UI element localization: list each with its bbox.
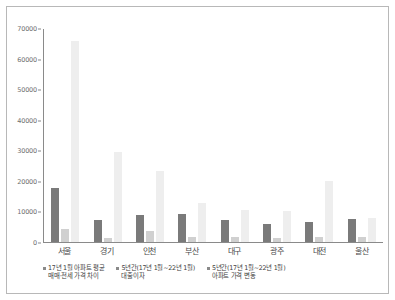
bar — [358, 237, 366, 242]
bar — [348, 219, 356, 242]
y-axis-tick-mark — [38, 181, 41, 182]
x-axis-label: 서울 — [43, 245, 86, 261]
x-axis-label: 대전 — [298, 245, 341, 261]
x-axis-label: 경기 — [86, 245, 129, 261]
y-axis-tick-label: 60000 — [17, 56, 37, 64]
bar-group — [214, 29, 256, 242]
bar-group — [341, 29, 383, 242]
bar-group — [298, 29, 340, 242]
y-axis: 010000200003000040000500006000070000 — [7, 29, 41, 243]
y-axis-tick-label: 50000 — [17, 86, 37, 94]
bar — [263, 224, 271, 242]
bar-group — [86, 29, 128, 242]
y-axis-tick-mark — [38, 29, 41, 30]
x-axis-labels: 서울경기인천부산대구광주대전울산 — [43, 245, 383, 261]
bar — [221, 220, 229, 242]
bar — [273, 238, 281, 242]
bar — [146, 231, 154, 242]
bar — [368, 218, 376, 242]
y-axis-tick-mark — [38, 151, 41, 152]
bar — [61, 229, 69, 242]
bar — [71, 41, 79, 242]
y-axis-tick-label: 20000 — [17, 178, 37, 186]
bar — [231, 237, 239, 242]
bar — [198, 203, 206, 242]
chart-legend: 17년 1월 아파트 평균 매매·전세 가격 차이5년간(17년 1월~22년 … — [43, 264, 388, 280]
x-axis-label: 부산 — [171, 245, 214, 261]
dot-marker-icon — [43, 267, 46, 270]
legend-item: 5년간(17년 1월~22년 1월) 아파트 가격 변동 — [207, 264, 285, 280]
bar — [241, 210, 249, 242]
y-axis-tick-mark — [38, 90, 41, 91]
y-axis-tick-label: 10000 — [17, 208, 37, 216]
y-axis-tick-mark — [38, 120, 41, 121]
legend-item: 5년간(17년 1월~22년 1월) 대출이자 — [116, 264, 194, 280]
bar-group — [171, 29, 213, 242]
y-axis-tick-label: 40000 — [17, 117, 37, 125]
bar — [325, 181, 333, 242]
dot-marker-icon — [116, 267, 119, 270]
bar — [188, 237, 196, 242]
legend-item: 17년 1월 아파트 평균 매매·전세 가격 차이 — [43, 264, 104, 280]
bar — [283, 211, 291, 242]
bar — [51, 188, 59, 242]
bar — [305, 222, 313, 242]
y-axis-tick-mark — [38, 59, 41, 60]
y-axis-tick-mark — [38, 243, 41, 244]
plot-area — [43, 29, 383, 243]
bar-group — [44, 29, 86, 242]
bar — [156, 171, 164, 242]
legend-label: 17년 1월 아파트 평균 매매·전세 가격 차이 — [48, 264, 104, 280]
y-axis-tick-label: 30000 — [17, 147, 37, 155]
bar-groups — [44, 29, 383, 242]
bar — [114, 152, 122, 242]
x-axis-label: 인천 — [128, 245, 171, 261]
legend-label: 5년간(17년 1월~22년 1월) 아파트 가격 변동 — [212, 264, 285, 280]
bar — [315, 237, 323, 242]
dot-marker-icon — [207, 267, 210, 270]
legend-label: 5년간(17년 1월~22년 1월) 대출이자 — [121, 264, 194, 280]
y-axis-tick-label: 70000 — [17, 25, 37, 33]
chart-figure: 010000200003000040000500006000070000 서울경… — [0, 0, 395, 300]
bar — [104, 238, 112, 242]
bar — [94, 220, 102, 242]
x-axis-label: 대구 — [213, 245, 256, 261]
bar-group — [256, 29, 298, 242]
bar-group — [129, 29, 171, 242]
y-axis-tick-label: 0 — [33, 239, 37, 247]
x-axis-label: 울산 — [341, 245, 384, 261]
x-axis-label: 광주 — [256, 245, 299, 261]
bar — [178, 214, 186, 242]
bar — [136, 215, 144, 242]
chart-frame: 010000200003000040000500006000070000 서울경… — [6, 6, 389, 294]
y-axis-tick-mark — [38, 212, 41, 213]
